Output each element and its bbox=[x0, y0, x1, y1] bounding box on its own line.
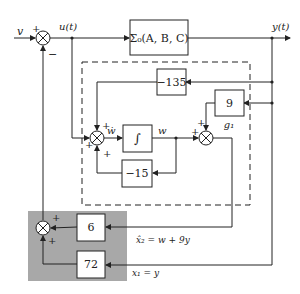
junction-u bbox=[70, 36, 73, 39]
sign-main-fb: − bbox=[48, 48, 57, 61]
gain-6-label: 6 bbox=[88, 221, 95, 234]
junction-w bbox=[174, 136, 177, 139]
integrator-label: ∫ bbox=[134, 131, 141, 146]
w-label: w bbox=[158, 125, 167, 136]
sign-out-left: + bbox=[191, 126, 199, 137]
junction-y-135 bbox=[270, 80, 273, 83]
sign-fb-bottom: + bbox=[48, 235, 56, 246]
sign-obs-bottom: + bbox=[103, 148, 111, 159]
input-v-label: v bbox=[17, 25, 24, 38]
sign-obs-left: + bbox=[85, 139, 93, 150]
x2-hat-label: x̂₂ = w + 9y bbox=[136, 235, 191, 245]
gain-neg15-label: −15 bbox=[125, 167, 148, 180]
junction-y bbox=[270, 36, 273, 39]
gain-9-name: g₁ bbox=[224, 119, 234, 130]
gain-72-label: 72 bbox=[84, 258, 98, 271]
sign-fb-top: + bbox=[52, 212, 60, 223]
sign-main-in: + bbox=[32, 23, 40, 34]
estimate-sum-junction bbox=[199, 131, 213, 145]
x1-label: x₁ = y bbox=[132, 268, 160, 278]
plant-label: Σ₀(A, B, C) bbox=[129, 32, 188, 45]
block-diagram: Σ₀(A, B, C) −135 9 g₁ ∫ −15 6 72 v u(t) … bbox=[0, 0, 300, 294]
sign-obs-top: + bbox=[102, 120, 110, 131]
feedback-sum-junction bbox=[36, 221, 50, 235]
output-y-label: y(t) bbox=[271, 21, 290, 32]
junction-y-9 bbox=[270, 101, 273, 104]
gain-9-label: 9 bbox=[226, 97, 233, 110]
gain-neg135-label: −135 bbox=[156, 76, 186, 89]
control-u-label: u(t) bbox=[59, 21, 77, 32]
